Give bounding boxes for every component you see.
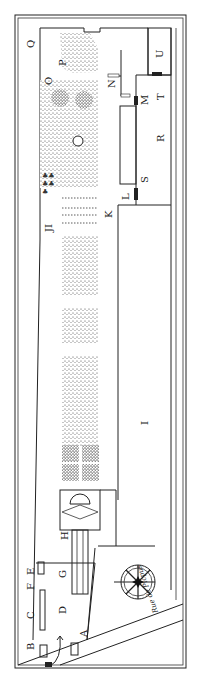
label-k: K [103, 210, 114, 218]
street-name-label: Rue de Picpus [135, 564, 160, 615]
tree-symbols: ♣♣ ♣♣ ♣ [42, 172, 55, 196]
label-u: U [154, 50, 165, 58]
label-l: L [120, 193, 131, 200]
label-g-upper: G [57, 570, 68, 578]
label-n: N [106, 79, 117, 88]
enclosure-wall [33, 28, 40, 640]
svg-text:♣: ♣ [42, 188, 48, 196]
label-f: F [25, 583, 36, 590]
label-e: E [25, 568, 36, 575]
label-p: P [57, 59, 68, 66]
plan-map: ♣♣ ♣♣ ♣ [0, 0, 202, 686]
label-o: O [43, 77, 54, 85]
garden-beds [62, 236, 99, 481]
label-a: A [78, 629, 89, 638]
svg-text:♣♣: ♣♣ [42, 172, 55, 180]
crop-rows [62, 198, 98, 223]
label-c: C [25, 611, 36, 619]
label-t: T [155, 93, 166, 100]
label-ji: JI [43, 224, 54, 233]
svg-text:♣♣: ♣♣ [42, 180, 55, 188]
label-r: R [155, 134, 166, 142]
label-q: Q [25, 40, 36, 48]
garden-top [40, 33, 98, 188]
label-h: H [59, 531, 70, 540]
label-m: M [139, 95, 150, 105]
label-s: S [139, 176, 150, 183]
label-d: D [57, 606, 68, 614]
label-b: B [25, 643, 36, 650]
label-i: I [139, 421, 150, 425]
building-r [120, 106, 136, 184]
street-rue-de-picpus [18, 604, 183, 665]
